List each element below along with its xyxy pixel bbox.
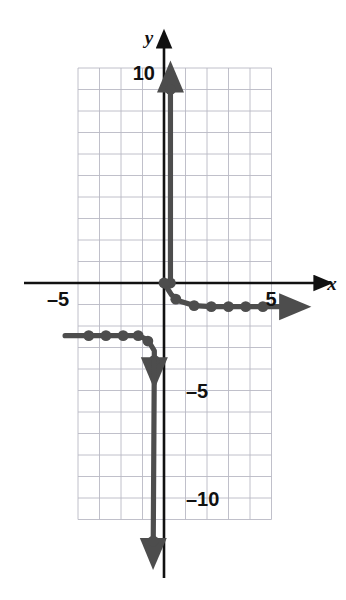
- data-point-marker: [165, 84, 176, 95]
- data-point-marker: [101, 330, 112, 341]
- y-axis-label: y: [143, 27, 154, 48]
- y-tick-minus-5: –5: [186, 380, 208, 402]
- data-point-marker: [189, 300, 200, 311]
- x-tick-minus-5: –5: [47, 288, 69, 310]
- data-point-marker: [148, 536, 159, 547]
- data-point-marker: [83, 330, 94, 341]
- x-tick-5: 5: [265, 288, 276, 310]
- data-point-marker: [170, 294, 181, 305]
- data-point-marker: [240, 301, 251, 312]
- data-point-marker: [142, 336, 153, 347]
- data-point-marker: [206, 301, 217, 312]
- data-point-marker: [223, 301, 234, 312]
- x-axis-label: x: [326, 273, 337, 294]
- curve-segment-lower-vertical-branch: [153, 360, 154, 541]
- data-point-marker: [118, 330, 129, 341]
- graph-figure: y x 10 –5 –10 –5 5: [0, 0, 346, 600]
- data-point-marker: [159, 278, 170, 289]
- grid-lines: [78, 68, 272, 520]
- coordinate-plane-svg: y x 10 –5 –10 –5 5: [0, 0, 346, 600]
- y-tick-minus-10: –10: [186, 488, 219, 510]
- data-point-marker: [133, 330, 144, 341]
- y-tick-10: 10: [133, 62, 155, 84]
